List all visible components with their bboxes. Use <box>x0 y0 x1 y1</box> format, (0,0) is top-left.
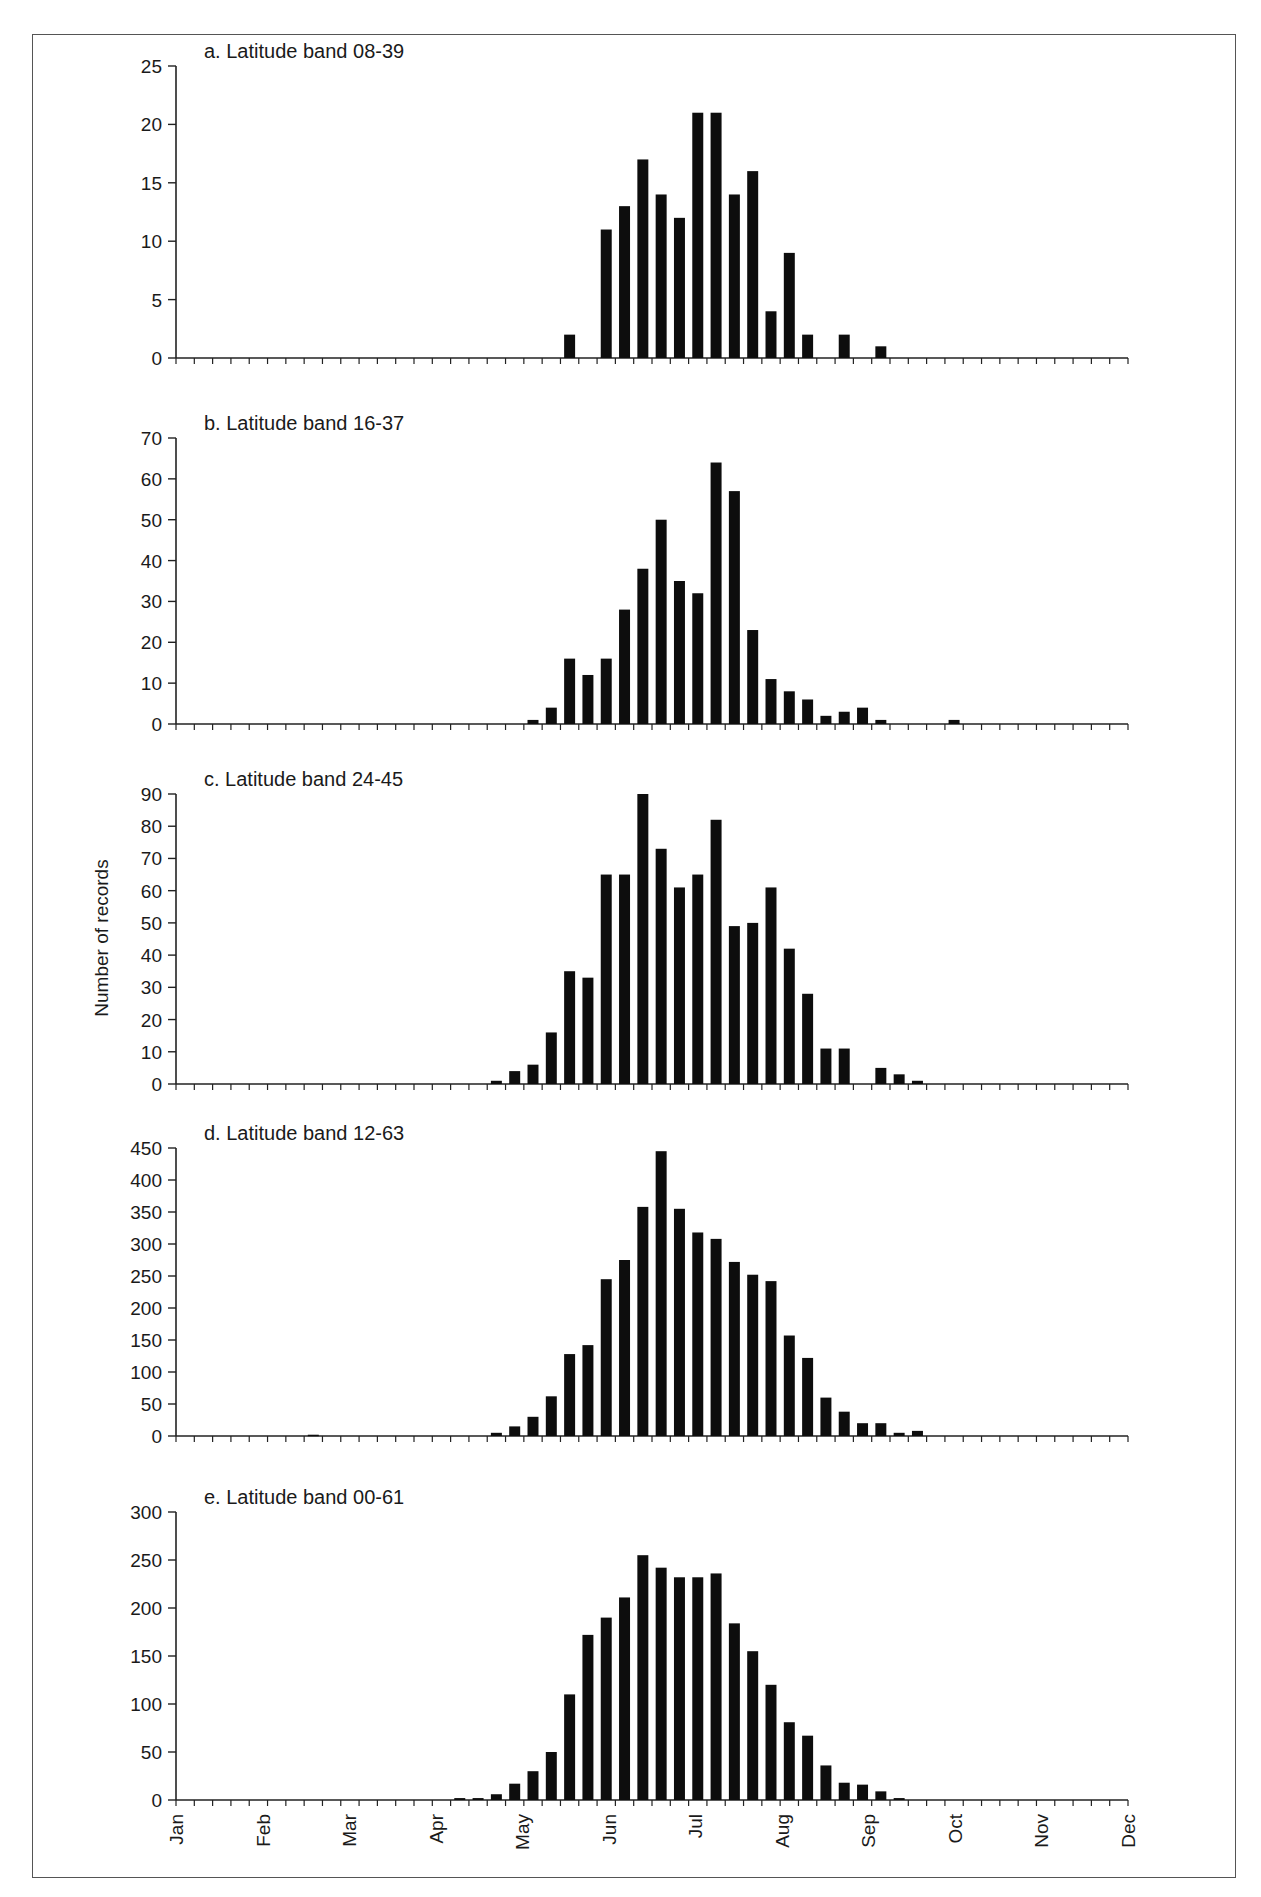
bar <box>509 1784 520 1800</box>
bar <box>857 1785 868 1800</box>
bar <box>820 1765 831 1800</box>
bar <box>692 593 703 724</box>
bar <box>747 171 758 358</box>
y-tick-label: 300 <box>130 1234 162 1255</box>
y-tick-label: 300 <box>130 1502 162 1523</box>
bar <box>820 1049 831 1084</box>
bar <box>582 675 593 724</box>
bar <box>692 1577 703 1800</box>
bar <box>802 1358 813 1436</box>
bar <box>784 1336 795 1436</box>
y-tick-label: 50 <box>141 510 162 531</box>
bar <box>601 1618 612 1800</box>
bar <box>747 630 758 724</box>
bar <box>564 335 575 358</box>
bar <box>637 1555 648 1800</box>
y-tick-label: 350 <box>130 1202 162 1223</box>
panel-title: a. Latitude band 08-39 <box>204 40 404 62</box>
bar <box>619 1260 630 1436</box>
bar <box>491 1433 502 1436</box>
y-tick-label: 5 <box>151 290 162 311</box>
bar <box>729 194 740 358</box>
bar <box>692 1232 703 1436</box>
bar <box>582 1345 593 1436</box>
bar <box>692 875 703 1084</box>
y-tick-label: 150 <box>130 1330 162 1351</box>
bar <box>564 659 575 724</box>
y-tick-label: 400 <box>130 1170 162 1191</box>
bar <box>656 194 667 358</box>
bar <box>875 720 886 724</box>
bar <box>839 1412 850 1436</box>
y-tick-label: 50 <box>141 1742 162 1763</box>
month-label: Nov <box>1031 1814 1052 1848</box>
y-tick-label: 150 <box>130 1646 162 1667</box>
bar <box>619 1597 630 1800</box>
bar <box>802 335 813 358</box>
bar <box>308 1435 319 1437</box>
figure: a. Latitude band 08-390510152025b. Latit… <box>0 0 1261 1897</box>
month-label: Sep <box>858 1814 879 1848</box>
bar <box>766 1685 777 1800</box>
y-tick-label: 80 <box>141 816 162 837</box>
bar <box>729 1623 740 1800</box>
month-label: Oct <box>945 1813 966 1843</box>
bar <box>875 1423 886 1436</box>
month-label: Dec <box>1118 1814 1139 1848</box>
bar <box>802 699 813 724</box>
bar <box>747 1651 758 1800</box>
bar <box>491 1794 502 1800</box>
bar <box>528 720 539 724</box>
bar <box>747 923 758 1084</box>
y-tick-label: 30 <box>141 591 162 612</box>
y-tick-label: 10 <box>141 673 162 694</box>
bar <box>601 659 612 724</box>
bar <box>857 1423 868 1436</box>
bar <box>802 1736 813 1800</box>
bar <box>546 1752 557 1800</box>
bar <box>766 679 777 724</box>
month-label: Jun <box>599 1814 620 1845</box>
panel-e: e. Latitude band 00-61050100150200250300… <box>130 1486 1139 1850</box>
bar <box>674 1577 685 1800</box>
y-tick-label: 15 <box>141 173 162 194</box>
bar <box>766 311 777 358</box>
panel-title: c. Latitude band 24-45 <box>204 768 403 790</box>
bar <box>564 1354 575 1436</box>
bar <box>454 1798 465 1800</box>
y-tick-label: 0 <box>151 1426 162 1447</box>
panel-title: d. Latitude band 12-63 <box>204 1122 404 1144</box>
bar <box>546 708 557 724</box>
bar <box>839 1783 850 1800</box>
month-label: Jan <box>166 1814 187 1845</box>
y-tick-label: 25 <box>141 56 162 77</box>
month-label: Aug <box>772 1814 793 1848</box>
bar <box>784 1722 795 1800</box>
bar <box>766 887 777 1084</box>
bar <box>528 1417 539 1436</box>
panel-d: d. Latitude band 12-63050100150200250300… <box>130 1122 1128 1447</box>
panel-a: a. Latitude band 08-390510152025 <box>141 40 1128 369</box>
bar <box>656 849 667 1084</box>
y-tick-label: 50 <box>141 1394 162 1415</box>
bar <box>729 926 740 1084</box>
bar <box>692 113 703 358</box>
bar <box>894 1433 905 1436</box>
y-tick-label: 250 <box>130 1266 162 1287</box>
bar <box>528 1771 539 1800</box>
bar <box>601 1279 612 1436</box>
bar <box>820 716 831 724</box>
bar <box>949 720 960 724</box>
month-label: Apr <box>426 1813 447 1843</box>
y-tick-label: 250 <box>130 1550 162 1571</box>
y-tick-label: 450 <box>130 1138 162 1159</box>
y-tick-label: 30 <box>141 977 162 998</box>
y-tick-label: 40 <box>141 945 162 966</box>
y-tick-label: 200 <box>130 1298 162 1319</box>
bar <box>875 1068 886 1084</box>
bar <box>784 691 795 724</box>
month-label: Feb <box>253 1814 274 1847</box>
bar <box>747 1275 758 1436</box>
bar <box>729 491 740 724</box>
bar <box>656 520 667 724</box>
